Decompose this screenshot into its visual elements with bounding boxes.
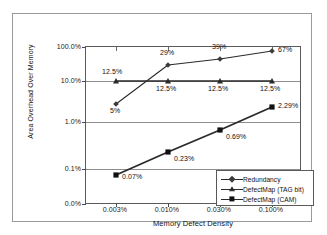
y-axis-tick-labels: 100.0% 10.0% 1.0% 0.1% 0.0% (29, 46, 81, 204)
diamond-marker-icon (221, 174, 243, 184)
x-tick-label: 0.100% (259, 206, 283, 213)
series-defectmap-cam (113, 104, 274, 177)
chart-frame: 100.0% 10.0% 1.0% 0.1% 0.0% Area Overhea… (12, 13, 312, 222)
x-tick-label: 0.030% (207, 206, 231, 213)
legend-item-defectmap-tagbit[interactable]: DefectMap (TAG bit) (221, 184, 309, 194)
legend-label: DefectMap (TAG bit) (243, 186, 304, 193)
y-tick-label: 0.1% (65, 165, 81, 172)
point-label-tagbit: 12.5% (102, 68, 122, 75)
point-label-cam: 0.23% (174, 155, 194, 162)
legend-item-redundancy[interactable]: Redundancy (221, 174, 309, 184)
chart-legend[interactable]: Redundancy DefectMap (TAG bit) DefectMap… (216, 170, 314, 206)
y-tick-label: 0.0% (65, 200, 81, 207)
y-axis-title: Area Overhead Over Memory (27, 27, 34, 157)
point-label-redundancy: 29% (160, 49, 174, 56)
y-tick-label: 100.0% (57, 43, 81, 50)
y-tick-label: 1.0% (65, 118, 81, 125)
point-label-tagbit: 12.5% (156, 85, 176, 92)
point-label-cam: 0.69% (226, 133, 246, 140)
legend-label: DefectMap (CAM) (243, 196, 297, 203)
x-tick-label: 0.010% (155, 206, 179, 213)
series-redundancy (113, 48, 275, 107)
x-tick-label: 0.003% (103, 206, 127, 213)
point-label-tagbit: 12.5% (260, 85, 280, 92)
legend-label: Redundancy (243, 176, 281, 183)
chart-screenshot: 100.0% 10.0% 1.0% 0.1% 0.0% Area Overhea… (0, 0, 327, 235)
legend-item-defectmap-cam[interactable]: DefectMap (CAM) (221, 194, 309, 204)
x-axis-title: Memory Defect Density (85, 219, 301, 228)
x-axis-tick-labels: 0.003% 0.010% 0.030% 0.100% (85, 206, 301, 220)
point-label-cam: 2.29% (278, 102, 298, 109)
series-defectmap-tagbit (113, 78, 275, 83)
point-label-redundancy: 5% (110, 107, 120, 114)
square-marker-icon (221, 194, 243, 204)
point-label-redundancy: 39% (212, 43, 226, 50)
point-label-tagbit: 12.5% (208, 85, 228, 92)
triangle-marker-icon (221, 184, 243, 194)
point-label-redundancy: 67% (278, 46, 292, 53)
point-label-cam: 0.07% (122, 173, 142, 180)
y-tick-label: 10.0% (61, 77, 81, 84)
